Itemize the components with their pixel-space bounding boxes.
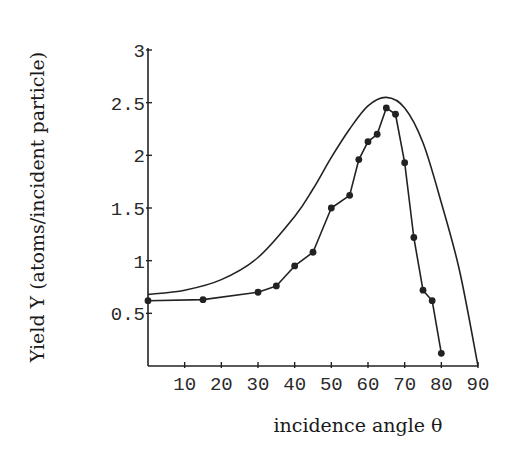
y-tick-label: 0.5 (111, 304, 145, 326)
data-point-marker (355, 156, 362, 163)
data-point-marker (374, 131, 381, 138)
x-tick-label: 20 (210, 374, 233, 396)
data-point-marker (438, 350, 445, 357)
data-point-marker (346, 192, 353, 199)
series-theory-line (148, 97, 478, 366)
y-tick-label: 2.5 (111, 94, 145, 116)
x-tick-label: 30 (247, 374, 270, 396)
y-tick-label: 1.5 (111, 199, 145, 221)
data-point-marker (401, 159, 408, 166)
data-point-marker (420, 287, 427, 294)
series-layer (145, 97, 478, 366)
x-tick-label: 70 (393, 374, 416, 396)
x-tick-label: 40 (283, 374, 306, 396)
data-point-marker (310, 249, 317, 256)
data-point-marker (383, 105, 390, 112)
data-point-marker (200, 296, 207, 303)
x-tick-label: 80 (430, 374, 453, 396)
series-measured-line (148, 108, 441, 353)
x-tick-label: 50 (320, 374, 343, 396)
yield-vs-angle-chart: 1020304050607080900.511.522.53 incidence… (0, 0, 514, 458)
data-point-marker (328, 205, 335, 212)
data-point-marker (273, 283, 280, 290)
data-point-marker (429, 297, 436, 304)
y-tick-label: 2 (134, 146, 145, 168)
y-tick-label: 1 (134, 252, 145, 274)
y-axis-title: Yield Y (atoms/incident particle) (26, 52, 48, 363)
x-tick-label: 10 (173, 374, 196, 396)
axes: 1020304050607080900.511.522.53 (111, 41, 490, 396)
data-point-marker (255, 289, 262, 296)
data-point-marker (291, 263, 298, 270)
data-point-marker (410, 234, 417, 241)
data-point-marker (145, 297, 152, 304)
data-point-marker (365, 138, 372, 145)
data-point-marker (392, 111, 399, 118)
x-tick-label: 90 (467, 374, 490, 396)
x-tick-label: 60 (357, 374, 380, 396)
x-axis-title: incidence angle θ (273, 414, 442, 436)
y-tick-label: 3 (134, 41, 145, 63)
